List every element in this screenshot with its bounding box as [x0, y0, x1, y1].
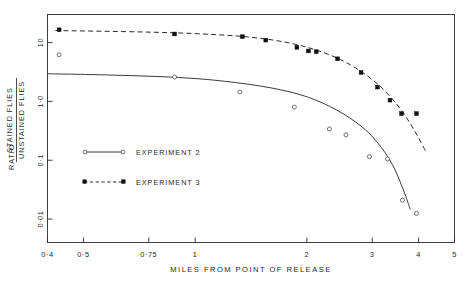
data-point-open-circle — [344, 133, 348, 137]
data-point-filled-square — [388, 98, 392, 102]
data-point-open-circle — [292, 105, 296, 109]
data-point-filled-square — [314, 50, 318, 54]
x-tick-label: 4 — [416, 250, 421, 259]
x-tick-label: 5 — [452, 250, 457, 259]
x-tick-label: 1 — [193, 250, 198, 259]
data-point-filled-square — [336, 57, 340, 61]
legend-swatch-filled-square — [122, 180, 126, 184]
data-point-open-circle — [367, 155, 371, 159]
data-point-open-circle — [173, 75, 177, 79]
legend-swatch-filled-square — [83, 180, 87, 184]
data-point-filled-square — [295, 45, 299, 49]
data-point-open-circle — [386, 157, 390, 161]
data-point-open-circle — [327, 127, 331, 131]
x-tick-label: 0·4 — [41, 250, 53, 259]
x-tick-label: 3 — [370, 250, 375, 259]
legend-label-experiment-2: EXPERIMENT 2 — [136, 148, 201, 157]
y-tick-label: 0·01 — [36, 211, 45, 228]
legend-label-experiment-3: EXPERIMENT 3 — [136, 178, 201, 187]
data-point-open-circle — [415, 211, 419, 215]
data-point-filled-square — [264, 38, 268, 42]
y-axis-title-denominator: UNSTAINED FLIES — [17, 81, 26, 159]
legend-swatch-open-circle — [121, 150, 125, 154]
data-point-open-circle — [400, 198, 404, 202]
data-point-filled-square — [57, 28, 61, 32]
y-tick-label: 1·0 — [36, 95, 45, 107]
y-axis-title-numerator: STAINED FLIES — [5, 87, 14, 153]
data-point-open-circle — [238, 90, 242, 94]
y-tick-label: 0·1 — [36, 154, 45, 166]
data-point-filled-square — [376, 85, 380, 89]
data-point-filled-square — [359, 71, 363, 75]
data-point-filled-square — [240, 35, 244, 39]
chart-figure: 0·40·50·7512345 101·00·10·01 MILES FROM … — [0, 0, 470, 285]
data-point-filled-square — [400, 112, 404, 116]
legend-swatch-open-circle — [83, 150, 87, 154]
data-point-filled-square — [173, 32, 177, 36]
x-tick-label: 0·75 — [140, 250, 157, 259]
data-point-filled-square — [307, 49, 311, 53]
data-point-open-circle — [57, 53, 61, 57]
x-tick-label: 2 — [305, 250, 310, 259]
chart-svg: 0·40·50·7512345 101·00·10·01 MILES FROM … — [0, 0, 470, 285]
y-tick-label: 10 — [36, 38, 45, 47]
data-point-filled-square — [415, 112, 419, 116]
x-tick-label: 0·5 — [77, 250, 89, 259]
x-axis-title: MILES FROM POINT OF RELEASE — [170, 265, 331, 274]
